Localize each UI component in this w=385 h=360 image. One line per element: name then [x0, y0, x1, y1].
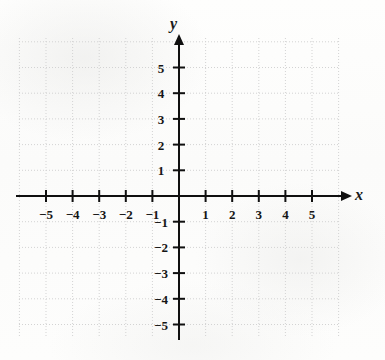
y-tick-label: −5	[154, 318, 168, 331]
y-axis-arrowhead	[174, 34, 184, 45]
x-tick-label: 4	[282, 208, 289, 221]
y-tick-label: −2	[154, 241, 168, 254]
x-axis-arrowhead	[341, 191, 352, 201]
x-tick-label: 2	[229, 208, 236, 221]
x-tick-label: −4	[66, 208, 80, 221]
x-tick-label: −5	[39, 208, 53, 221]
y-tick-label: 2	[158, 138, 165, 151]
x-tick-label: 1	[202, 208, 209, 221]
y-tick-label: 1	[158, 164, 165, 177]
y-tick-label: −1	[154, 215, 168, 228]
x-tick-label: −3	[92, 208, 106, 221]
x-tick-label: −2	[119, 208, 133, 221]
y-axis-label: y	[170, 16, 177, 32]
y-tick-label: 4	[158, 87, 165, 100]
x-axis-label: x	[355, 187, 363, 203]
y-tick-label: 3	[158, 112, 165, 125]
x-tick-label: 5	[309, 208, 316, 221]
coordinate-plane-figure: −5−4−3−2−112345−5−4−3−2−112345 x y	[0, 0, 385, 360]
axes-group	[16, 34, 352, 340]
x-tick-label: 3	[256, 208, 263, 221]
y-tick-label: 5	[158, 61, 165, 74]
y-tick-label: −4	[154, 292, 168, 305]
y-tick-label: −3	[154, 267, 168, 280]
coordinate-plane-svg	[0, 0, 385, 360]
